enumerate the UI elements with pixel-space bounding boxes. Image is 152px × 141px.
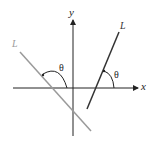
gray-line-l [20, 52, 91, 131]
acute-angle-arc [104, 71, 114, 88]
inclination-diagram [0, 0, 152, 141]
y-axis-label: y [69, 6, 74, 18]
acute-theta-label: θ [114, 69, 119, 80]
dark-line-label: L [120, 20, 126, 31]
obtuse-angle-arc [43, 71, 67, 88]
obtuse-theta-label: θ [59, 62, 64, 73]
gray-line-label: L [12, 38, 18, 49]
x-axis-label: x [141, 80, 146, 92]
